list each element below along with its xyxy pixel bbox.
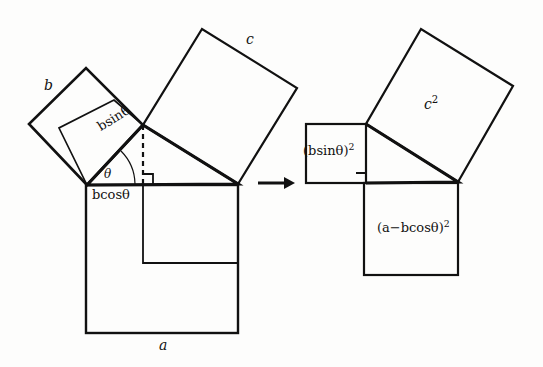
angle-arc-theta (121, 151, 135, 184)
label-bsin-theta-squared-base: (bsinθ) (303, 143, 349, 158)
square-on-side-c (143, 29, 297, 184)
law-of-cosines-figure: b c a bsinθ bcosθ θ c2 (bsinθ)2 (a−bcosθ… (0, 0, 543, 367)
label-a-minus-bcos-theta-squared-exponent: 2 (444, 218, 450, 229)
triangle-abc-right (366, 124, 458, 183)
label-side-a: a (159, 338, 167, 352)
left-panel-group (29, 29, 297, 333)
label-c-squared: c2 (424, 95, 438, 111)
label-bsin-theta-squared: (bsinθ)2 (303, 142, 354, 157)
label-bsin-theta-squared-exponent: 2 (349, 141, 355, 152)
square-c-squared (366, 29, 513, 182)
label-side-b: b (44, 78, 53, 92)
label-side-c: c (246, 32, 254, 46)
label-a-minus-bcos-theta-squared-base: (a−bcosθ) (377, 220, 444, 235)
label-c-squared-base: c (424, 96, 432, 112)
right-angle-mark (143, 174, 153, 184)
right-angle-mark-right (356, 173, 366, 183)
transformation-arrow (258, 177, 295, 189)
label-c-squared-exponent: 2 (432, 94, 438, 105)
label-theta: θ (104, 168, 111, 180)
diagram-canvas (0, 0, 543, 367)
inner-rectangle-a-projection (143, 185, 238, 263)
label-a-minus-bcos-theta-squared: (a−bcosθ)2 (377, 219, 450, 234)
label-b-cos-theta: bcosθ (92, 188, 130, 201)
square-on-side-a (86, 185, 238, 333)
